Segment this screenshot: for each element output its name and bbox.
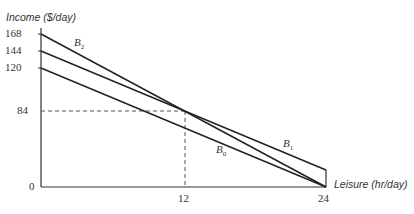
y-tick-84: 84: [17, 104, 28, 116]
y-tick-168: 168: [5, 27, 22, 39]
label-b1: B1: [283, 137, 293, 152]
label-b0: B0: [216, 143, 226, 158]
x-tick-12: 12: [178, 192, 189, 204]
y-tick-120: 120: [5, 61, 22, 73]
y-tick-144: 144: [5, 44, 22, 56]
line-b0: [41, 68, 326, 187]
y-tick-0: 0: [29, 180, 35, 192]
label-b2: B2: [74, 36, 84, 51]
budget-constraint-chart: Income ($/day) 168 144 120 84 0 12 24 Le…: [0, 0, 414, 214]
x-axis-label: Leisure (hr/day): [334, 178, 408, 190]
x-tick-24: 24: [318, 192, 329, 204]
y-axis-label: Income ($/day): [6, 11, 76, 23]
